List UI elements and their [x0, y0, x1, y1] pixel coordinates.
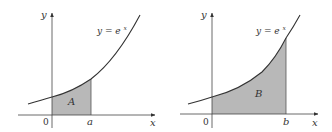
function-label-text: y = e — [255, 26, 280, 36]
function-label-exponent: x — [124, 24, 128, 31]
y-axis-label: y — [40, 9, 47, 20]
right-panel: y 0 b x B y = e x — [180, 9, 318, 128]
origin-label: 0 — [203, 117, 209, 127]
function-label-text: y = e — [96, 26, 121, 36]
y-axis-label: y — [200, 9, 207, 20]
origin-label: 0 — [43, 117, 49, 127]
left-panel: y 0 a x A y = e x — [18, 9, 156, 128]
bound-label-a: a — [87, 116, 93, 127]
function-label-exponent: x — [283, 24, 287, 31]
bound-label-b: b — [283, 116, 289, 127]
region-b-fill — [212, 38, 286, 114]
region-a-label: A — [67, 96, 75, 107]
function-label: y = e x — [255, 24, 287, 36]
x-axis-label: x — [312, 117, 318, 128]
function-label: y = e x — [96, 24, 128, 36]
diagram-canvas: y 0 a x A y = e x y 0 b x B y = e x — [0, 0, 332, 132]
x-axis-label: x — [150, 117, 156, 128]
region-b-label: B — [254, 88, 262, 99]
